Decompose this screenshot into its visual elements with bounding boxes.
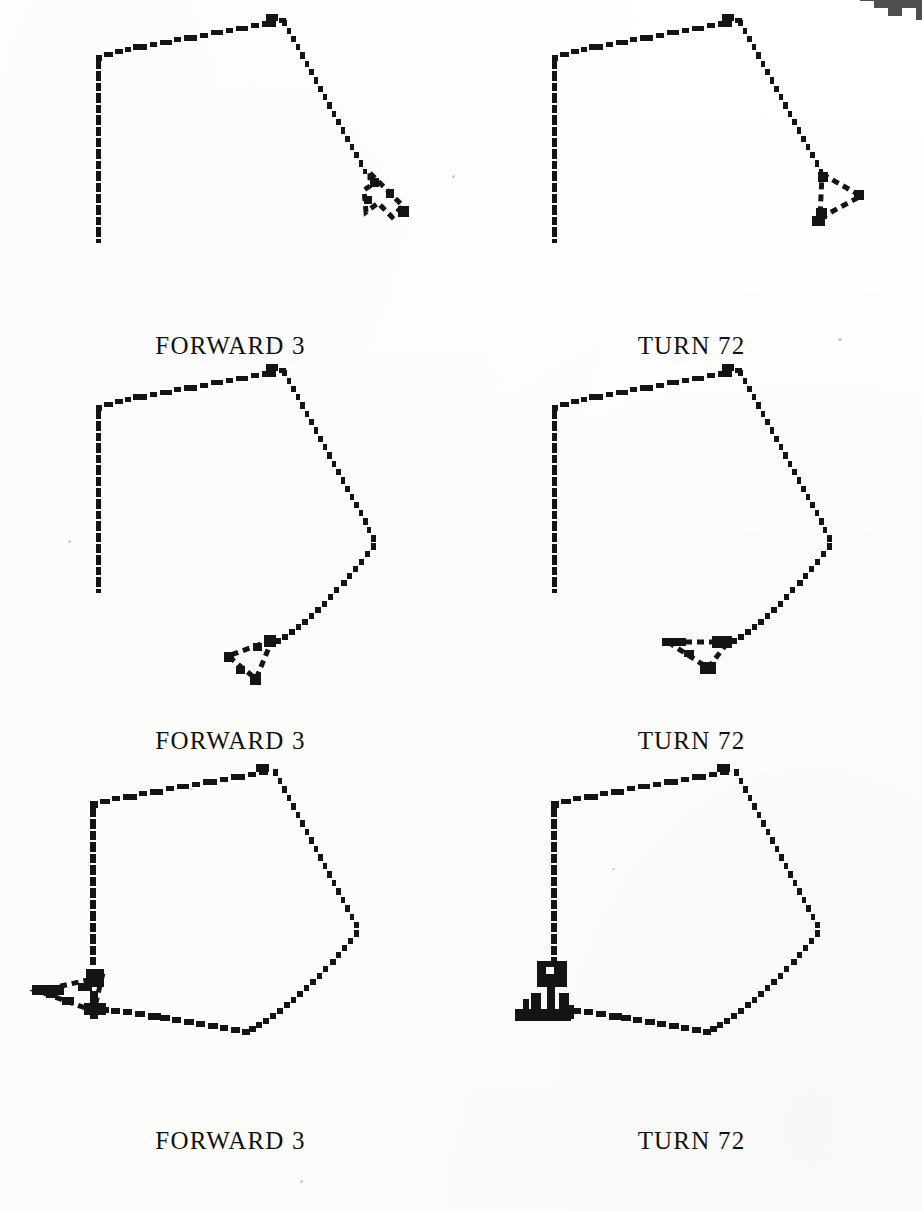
panel-1: FORWARD 3 [0, 0, 461, 360]
panel-5-figure [0, 755, 461, 1127]
side-4-v2-to-v3 [249, 930, 359, 1032]
turtle-drawing-1 [60, 0, 460, 300]
side-2-v1-to-apex [96, 14, 286, 61]
turtle-cursor-6 [515, 961, 574, 1021]
panel-3-caption: FORWARD 3 [155, 727, 305, 755]
turtle-drawing-5 [10, 755, 440, 1060]
panel-6-caption: TURN 72 [638, 1127, 746, 1155]
panel-2-figure [461, 0, 922, 332]
panel-4: TURN 72 [461, 360, 922, 755]
side-1-start-to-v1 [90, 807, 96, 965]
panel-6-figure [461, 755, 922, 1127]
side-5-v3-to-start [563, 1007, 711, 1035]
turtle-drawing-2 [516, 0, 916, 300]
turtle-cursor-5 [32, 969, 106, 1019]
side-3-apex-to-v2 [734, 769, 820, 928]
turtle-drawing-3 [60, 350, 460, 695]
turtle-drawing-4 [516, 350, 916, 695]
side-3-apex-to-v2 [738, 370, 832, 542]
side-4-v2-to-v3 [731, 543, 832, 644]
panel-5-caption: FORWARD 3 [155, 1127, 305, 1155]
panel-5: FORWARD 3 [0, 755, 461, 1155]
turtle-cursor-3 [224, 635, 276, 685]
panel-3: FORWARD 3 [0, 360, 461, 755]
side-2-v1-to-apex [551, 764, 730, 808]
panel-6: TURN 72 [461, 755, 922, 1155]
side-1-start-to-v1 [552, 410, 557, 593]
side-3-apex-to-v2 [738, 20, 823, 174]
turtle-cursor-2 [812, 172, 864, 226]
side-1-start-to-v1 [96, 410, 101, 593]
side-4-v2-to-v3 [710, 930, 820, 1032]
side-5-v3-to-start [102, 1007, 250, 1035]
side-2-v1-to-apex [96, 364, 286, 411]
side-2-v1-to-apex [552, 14, 742, 61]
panel-2: TURN 72 [461, 0, 922, 360]
side-1-start-to-v1 [96, 60, 101, 243]
side-3-apex-to-v2 [282, 20, 367, 174]
side-3-apex-to-v2 [282, 370, 376, 542]
panel-4-figure [461, 360, 922, 727]
side-1-start-to-v1 [552, 60, 557, 243]
side-4-v2-to-v3 [275, 543, 376, 644]
panel-grid: FORWARD 3 [0, 0, 922, 1211]
panel-1-figure [0, 0, 461, 332]
turtle-cursor-1 [364, 173, 409, 217]
side-2-v1-to-apex [90, 764, 269, 808]
panel-3-figure [0, 360, 461, 727]
panel-4-caption: TURN 72 [638, 727, 746, 755]
turtle-cursor-4 [662, 636, 732, 674]
side-1-start-to-v1 [551, 807, 557, 965]
scanned-page: FORWARD 3 [0, 0, 922, 1211]
side-3-apex-to-v2 [273, 769, 359, 928]
side-2-v1-to-apex [552, 364, 742, 411]
turtle-drawing-6 [471, 755, 901, 1060]
